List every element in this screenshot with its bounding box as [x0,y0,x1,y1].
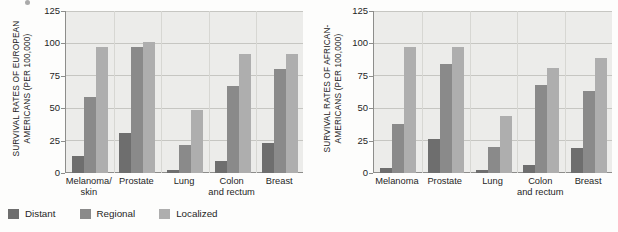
bar-localized [500,116,512,173]
bar-distant [119,133,131,173]
y-tick-label-75: 75 [334,70,368,81]
y-tick-label-100: 100 [334,37,368,48]
legend-item-regional: Regional [80,208,136,219]
group-separator [161,11,162,173]
bar-group [262,11,298,173]
y-tick-mark-0 [369,173,373,174]
bar-localized [143,42,155,173]
y-axis-title-left: SURVIVAL RATES OF EUROPEAN AMERICANS (PE… [11,4,32,174]
y-axis-title-left-line1: SURVIVAL RATES OF EUROPEAN [11,21,21,157]
bar-group [476,11,512,173]
bar-regional [227,86,239,173]
y-tick-mark-0 [61,173,65,174]
legend-swatch-regional [80,209,91,219]
bar-distant [380,168,392,173]
y-tick-mark-50 [369,108,373,109]
bar-distant [262,143,274,173]
y-tick-label-75: 75 [26,70,60,81]
x-category-label-line1: Lung [482,176,503,186]
bar-localized [452,47,464,173]
bar-distant [428,139,440,173]
bar-distant [571,148,583,173]
bar-group [215,11,251,173]
bar-group [571,11,607,173]
legend-item-distant: Distant [8,208,56,219]
bar-regional [179,145,191,174]
y-tick-mark-50 [61,108,65,109]
y-tick-label-125: 125 [334,5,368,16]
y-axis-title-left-line2: AMERICANS (PER 100,000) [21,34,31,144]
y-tick-mark-75 [61,76,65,77]
bar-distant [167,170,179,173]
x-category-label-line1: Colon [219,176,243,186]
y-tick-mark-100 [369,43,373,44]
y-axis-title-right-line2: AMERICANS (PER 100,000) [332,34,342,144]
bar-regional [274,69,286,173]
bar-regional [535,85,547,173]
bar-group [119,11,155,173]
bar-regional [84,97,96,173]
y-tick-mark-125 [369,11,373,12]
bar-distant [476,170,488,173]
y-tick-label-50: 50 [334,102,368,113]
x-category-label-line1: Breast [575,176,602,186]
y-axis-title-right-line1: SURVIVAL RATES OF AFRICAN- [322,24,332,152]
bar-group [72,11,108,173]
y-tick-mark-125 [61,11,65,12]
x-category-label-line2: skin [81,187,98,197]
plot-area-right [373,11,612,173]
x-category-label-line2: and rectum [208,187,255,197]
x-category-label-line2: and rectum [517,187,564,197]
y-axis-title-right: SURVIVAL RATES OF AFRICAN- AMERICANS (PE… [322,4,343,174]
legend-swatch-localized [159,209,170,219]
bar-localized [96,47,108,173]
bar-localized [595,58,607,173]
bar-group [380,11,416,173]
x-category-label: Breast [242,176,316,187]
bar-group [167,11,203,173]
legend: Distant Regional Localized [8,208,218,219]
group-separator [470,11,471,173]
x-category-label-line1: Colon [528,176,552,186]
legend-label-distant: Distant [25,208,56,219]
y-tick-label-25: 25 [26,135,60,146]
chart-panel-african-americans: SURVIVAL RATES OF AFRICAN- AMERICANS (PE… [309,0,618,205]
group-separator [114,11,115,173]
figure-two-panel-survival-rates: SURVIVAL RATES OF EUROPEAN AMERICANS (PE… [0,0,618,232]
y-tick-label-50: 50 [26,102,60,113]
bar-distant [72,156,84,173]
group-separator [565,11,566,173]
bar-localized [404,47,416,173]
bar-distant [523,165,535,173]
y-tick-mark-100 [61,43,65,44]
group-separator [256,11,257,173]
group-separator [209,11,210,173]
legend-swatch-distant [8,209,19,219]
chart-panel-european-americans: SURVIVAL RATES OF EUROPEAN AMERICANS (PE… [0,0,309,205]
bar-regional [131,47,143,173]
bar-localized [547,68,559,173]
group-separator [517,11,518,173]
x-category-label: Breast [551,176,618,187]
bar-regional [488,147,500,173]
bar-localized [239,54,251,173]
bar-group [523,11,559,173]
y-tick-label-25: 25 [334,135,368,146]
x-category-label-line1: Lung [174,176,195,186]
y-tick-mark-25 [369,141,373,142]
bar-distant [215,161,227,173]
x-category-label-line1: Breast [266,176,293,186]
y-tick-label-125: 125 [26,5,60,16]
bar-localized [286,54,298,173]
y-tick-mark-75 [369,76,373,77]
bar-regional [392,124,404,173]
bar-localized [191,110,203,174]
bar-regional [583,91,595,173]
y-tick-mark-25 [61,141,65,142]
bar-group [428,11,464,173]
legend-label-localized: Localized [176,208,217,219]
y-tick-label-100: 100 [26,37,60,48]
bar-regional [440,64,452,173]
plot-area-left [65,11,303,173]
group-separator [422,11,423,173]
